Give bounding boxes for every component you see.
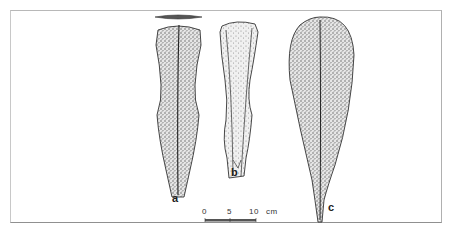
artifact-c-drawing <box>289 17 354 222</box>
artifact-drawings <box>0 0 456 237</box>
scale-tick-10: 10 <box>249 207 259 216</box>
artifact-a-drawing <box>156 25 201 197</box>
artifact-a-label: a <box>172 192 178 204</box>
scale-tick-0: 0 <box>202 207 207 216</box>
artifact-b-drawing <box>220 22 258 178</box>
artifact-b-label: b <box>231 166 238 178</box>
scale-bar <box>205 218 256 222</box>
artifact-c-label: c <box>328 201 334 213</box>
scale-tick-5: 5 <box>227 207 232 216</box>
scale-unit: cm <box>266 207 278 216</box>
artifact-a-section <box>155 15 202 19</box>
